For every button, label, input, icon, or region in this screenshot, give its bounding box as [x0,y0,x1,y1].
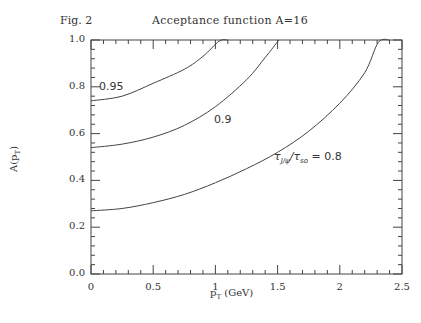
y-tick-label: 0.8 [55,80,85,91]
y-axis-label-main: A(p [8,154,19,172]
plot-frame [91,40,402,274]
curve-line [91,39,390,211]
y-tick-label: 0.6 [55,127,85,138]
chart-title: Acceptance function A=16 [152,14,308,27]
x-axis-label: pT (GeV) [210,287,253,301]
curve-value-08: = 0.8 [308,150,342,163]
x-tick-label: 0 [76,281,106,292]
y-axis-label: A(pT) [8,146,22,172]
y-tick-label: 0.0 [55,267,85,278]
curve-line [91,40,279,148]
y-tick-label: 0.2 [55,220,85,231]
x-tick-label: 2 [325,281,355,292]
x-tick-label: 2.5 [387,281,417,292]
curve-label-09: 0.9 [214,113,232,126]
tau-sub-jpsi: J/ψ [281,157,290,165]
tau-symbol: τ [274,150,281,163]
curve-label-08: τJ/ψ/τso = 0.8 [274,150,342,165]
y-tick-label: 0.4 [55,173,85,184]
axis-ticks [91,40,402,274]
curves [91,39,390,211]
x-tick-label: 1.5 [263,281,293,292]
tau-slash: /τ [290,150,300,163]
y-tick-label: 1.0 [55,33,85,44]
y-axis-label-sub: T [14,150,22,155]
curve-label-095: 0.95 [99,80,124,93]
y-axis-label-end: ) [8,146,19,150]
x-axis-label-unit: (GeV) [221,287,253,298]
tau-sub-so: so [300,157,308,165]
x-tick-label: 0.5 [138,281,168,292]
figure-label: Fig. 2 [60,14,92,27]
